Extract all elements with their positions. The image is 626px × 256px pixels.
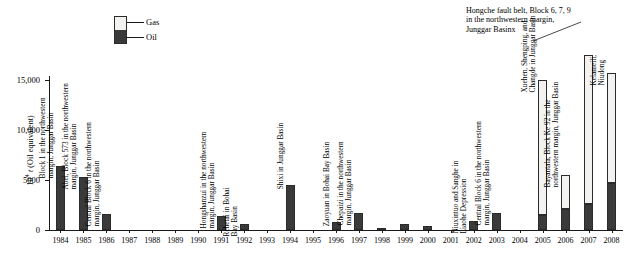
bar-segment-oil: [561, 209, 570, 230]
bar-annotation-1996: Zaoyuan in Bohai Bay Basin: [322, 26, 330, 226]
bar-chart: 104 t (Oil equivalent) 15,000 10,000 500…: [0, 0, 626, 256]
x-tick-mark: [520, 230, 521, 233]
bar-segment-gas: [607, 73, 616, 183]
callout-annotation: Hongche fault belt, Block 6, 7, 9 in the…: [466, 6, 571, 34]
bar-segment-oil: [400, 224, 409, 230]
bar-segment-oil: [354, 213, 363, 231]
legend-leader-gas: [127, 22, 144, 23]
x-tick-mark: [405, 230, 406, 233]
bar-annotation-1992: Rehetai in Bohai Bay Basin: [222, 36, 238, 236]
bar-annotation-2003: Central Block 6 in the northwestern marg…: [475, 25, 491, 225]
y-tick-label-0: 0: [0, 226, 40, 235]
bar-segment-oil: [240, 224, 249, 230]
x-tick-mark: [313, 230, 314, 233]
bar-annotation-1994: Shixi in Junggar Basin: [276, 0, 284, 189]
x-tick-mark: [428, 230, 429, 233]
x-tick-mark: [359, 230, 360, 233]
bar-1994: [286, 185, 295, 230]
y-tick-label-15000: 15,000: [0, 76, 40, 85]
x-tick-mark: [129, 230, 130, 233]
bar-segment-oil: [492, 213, 501, 230]
y-tick-mark-5000: [45, 180, 49, 181]
x-tick-mark: [83, 230, 84, 233]
legend-leader-oil: [127, 37, 144, 38]
x-tick-mark: [198, 230, 199, 233]
bar-2008: [607, 73, 616, 230]
bar-1992: [240, 224, 249, 230]
x-tick-mark: [474, 230, 475, 233]
bar-annotation-2002: Niuxintuo and Sanghe in Liaohe Depressio…: [452, 33, 468, 233]
y-tick-mark-0: [45, 230, 49, 231]
x-tick-label-2008: 2008: [596, 236, 626, 245]
bar-segment-oil: [607, 183, 616, 230]
bar-segment-oil: [286, 185, 295, 230]
bar-2000: [423, 226, 432, 230]
bar-1986: [102, 214, 111, 231]
bar-1998: [377, 228, 386, 230]
x-tick-mark: [244, 230, 245, 233]
legend-swatch-oil-portion: [115, 30, 126, 43]
x-tick-mark: [612, 230, 613, 233]
x-tick-mark: [175, 230, 176, 233]
bar-segment-oil: [102, 214, 111, 231]
bar-annotation-1991: Hongshanzui in the northwestern margin, …: [199, 28, 215, 228]
x-tick-mark: [60, 230, 61, 233]
legend-swatch: [114, 16, 127, 44]
bar-annotation-1997: Chepaizi in the northwestern margin, Jun…: [337, 25, 353, 225]
x-tick-mark: [589, 230, 590, 233]
y-axis-title: 104 t (Oil equivalent): [24, 80, 35, 220]
y-tick-label-5000: 5000: [0, 176, 40, 185]
bar-annotation-1986: Central Block 6 in the northwestern marg…: [84, 26, 100, 226]
x-tick-mark: [267, 230, 268, 233]
legend-label-oil: Oil: [146, 33, 157, 42]
bar-segment-oil: [584, 204, 593, 230]
bar-annotation-1985: Abei, Block 573 in the northwestern marg…: [62, 0, 78, 189]
x-tick-mark: [106, 230, 107, 233]
x-tick-mark: [336, 230, 337, 233]
bar-2006: [561, 175, 570, 230]
y-tick-label-10000: 10,000: [0, 126, 40, 135]
bar-segment-oil: [538, 215, 547, 230]
bar-2003: [492, 213, 501, 230]
legend-label-gas: Gas: [146, 18, 159, 27]
bar-1999: [400, 224, 409, 230]
bar-segment-oil: [423, 226, 432, 230]
bar-segment-gas: [561, 175, 570, 209]
x-tick-mark: [543, 230, 544, 233]
x-tick-mark: [152, 230, 153, 233]
x-tick-mark: [290, 230, 291, 233]
bar-segment-oil: [377, 228, 386, 230]
bar-1997: [354, 213, 363, 231]
x-tick-mark: [566, 230, 567, 233]
x-tick-mark: [497, 230, 498, 233]
x-tick-mark: [382, 230, 383, 233]
bar-annotation-1984: Block 1 in the northwestern margin, Jung…: [39, 0, 55, 178]
bar-annotation-2008: Kelameili, Niudong: [590, 0, 606, 85]
